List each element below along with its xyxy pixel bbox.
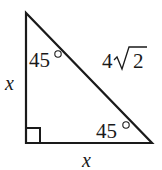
top-angle-value: 45 [29, 48, 50, 72]
bottom-leg-label: x [81, 149, 91, 170]
right-angle-marker [26, 128, 40, 143]
hypotenuse-coefficient: 4 [102, 49, 113, 73]
top-angle-label: 45 [29, 48, 50, 72]
left-leg-label: x [4, 72, 14, 94]
bottom-right-angle-value: 45 [96, 119, 117, 143]
bottom-right-angle-degree-icon [123, 122, 129, 128]
triangle-shape [26, 13, 152, 143]
triangle-diagram: 45 4 2 x 45 x [0, 0, 162, 170]
hypotenuse-radicand: 2 [133, 49, 144, 73]
top-angle-degree-icon [55, 51, 61, 57]
bottom-right-angle-label: 45 [96, 119, 117, 143]
